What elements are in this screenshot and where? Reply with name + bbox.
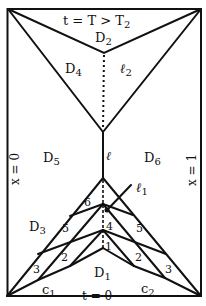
curve-l2-label: ℓ2 — [120, 61, 132, 78]
left-boundary-label: x = 0 — [8, 153, 22, 185]
segment-number: 3 — [33, 263, 40, 276]
region-d1-label: D1 — [94, 265, 111, 282]
region-d6-label: D6 — [144, 150, 161, 167]
svg-text:D3: D3 — [29, 219, 46, 236]
segment-number: 2 — [135, 251, 142, 264]
segment-number: 6 — [84, 196, 91, 209]
region-d4-label: D4 — [65, 61, 82, 78]
segment-number: 1 — [105, 240, 112, 253]
segment-number: 2 — [61, 251, 68, 264]
svg-text:t = T > T2: t = T > T2 — [63, 13, 130, 30]
svg-text:ℓ1: ℓ1 — [136, 180, 148, 197]
svg-text:D6: D6 — [144, 150, 161, 167]
svg-text:ℓ: ℓ — [106, 149, 111, 163]
domain-diagram: t = T > T2 D2 D4 ℓ2 D5 D6 ℓ ℓ1 D3 D1 c1 … — [0, 0, 206, 306]
segment-number: 4 — [106, 220, 113, 233]
segment-number: 5 — [136, 222, 143, 235]
segment-number: 5 — [62, 222, 69, 235]
curve-c2-label: c2 — [141, 281, 155, 298]
svg-text:c1: c1 — [42, 282, 56, 299]
curve-l1-label: ℓ1 — [136, 180, 148, 197]
bottom-label: t = 0 — [82, 289, 112, 303]
region-d5-label: D5 — [43, 150, 60, 167]
curve-l-label: ℓ — [106, 149, 111, 163]
curve-c1-label: c1 — [42, 282, 56, 299]
svg-text:ℓ2: ℓ2 — [120, 61, 132, 78]
segment-number: 3 — [165, 263, 172, 276]
top-label: t = T > T2 — [63, 13, 130, 30]
l2-dotted-line — [103, 55, 104, 130]
right-boundary-label: x = 1 — [185, 154, 199, 186]
region-d2-label: D2 — [95, 30, 112, 47]
right-outer-slope — [103, 178, 201, 296]
svg-text:D4: D4 — [65, 61, 82, 78]
l1-pointer-dot — [105, 208, 110, 213]
svg-text:D2: D2 — [95, 30, 112, 47]
svg-text:D5: D5 — [43, 150, 60, 167]
region-d3-label: D3 — [29, 219, 46, 236]
svg-text:c2: c2 — [141, 281, 155, 298]
svg-text:D1: D1 — [94, 265, 111, 282]
